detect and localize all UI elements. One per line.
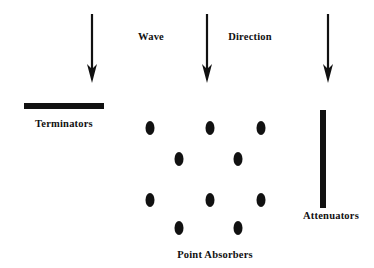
point-absorber-dot [257,193,266,207]
wave-energy-converter-diagram: Wave Direction Terminators Point Absorbe… [0,0,374,268]
point-absorbers-label: Point Absorbers [177,250,253,261]
point-absorber-dot [234,221,243,235]
wave-direction-arrow-left [85,14,99,84]
point-absorber-dot [206,121,215,135]
point-absorber-dot [206,193,215,207]
point-absorber-dot [146,121,155,135]
point-absorber-dot [146,193,155,207]
wave-direction-arrow-middle [200,14,214,84]
attenuators-label: Attenuators [303,211,359,222]
terminators-label: Terminators [35,119,93,130]
wave-label: Wave [138,32,164,43]
wave-direction-arrow-right [321,14,335,84]
terminators-bar [24,103,104,109]
point-absorber-dot [175,152,184,166]
point-absorber-dot [175,221,184,235]
point-absorber-dot [257,121,266,135]
point-absorber-dot [234,152,243,166]
attenuators-bar [320,110,326,208]
direction-label: Direction [228,32,272,43]
